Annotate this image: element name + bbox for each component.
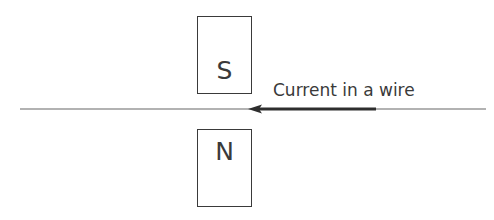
magnet-south: S xyxy=(197,16,252,94)
magnet-north: N xyxy=(197,129,252,207)
north-pole-label: N xyxy=(198,138,251,166)
wire-label: Current in a wire xyxy=(273,79,415,101)
south-pole-label: S xyxy=(198,57,251,85)
